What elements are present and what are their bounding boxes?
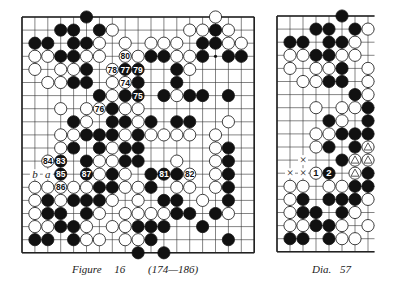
black-stone xyxy=(349,180,361,192)
move-number: 2 xyxy=(326,167,331,178)
white-stone xyxy=(297,180,309,192)
white-stone xyxy=(336,233,348,245)
black-stone xyxy=(336,36,348,48)
white-stone xyxy=(362,193,374,205)
black-stone xyxy=(310,23,322,35)
dia-caption-label: Dia. xyxy=(312,263,331,275)
white-stone xyxy=(336,102,348,114)
black-stone xyxy=(297,206,309,218)
white-stone xyxy=(297,220,309,232)
white-stone xyxy=(297,49,309,61)
point-mark: × xyxy=(299,153,307,167)
black-stone xyxy=(297,36,309,48)
black-stone xyxy=(297,233,309,245)
figure-caption: Figure 16 (174—186) xyxy=(72,263,198,275)
white-stone xyxy=(284,180,296,192)
black-stone xyxy=(323,193,335,205)
white-stone xyxy=(336,115,348,127)
black-stone xyxy=(323,233,335,245)
white-stone xyxy=(336,180,348,192)
white-stone xyxy=(349,36,361,48)
black-stone xyxy=(323,115,335,127)
black-stone xyxy=(336,62,348,74)
figure-caption-range: (174—186) xyxy=(148,263,198,275)
black-stone xyxy=(284,233,296,245)
black-stone xyxy=(336,75,348,87)
white-stone xyxy=(310,75,322,87)
white-stone xyxy=(336,220,348,232)
black-stone xyxy=(323,220,335,232)
black-stone xyxy=(310,49,322,61)
white-stone xyxy=(362,89,374,101)
white-stone: 1 xyxy=(310,167,322,179)
black-stone xyxy=(297,193,309,205)
black-stone xyxy=(323,75,335,87)
dia-caption: Dia. 57 xyxy=(312,263,351,275)
white-stone xyxy=(336,49,348,61)
figure-caption-number: 16 xyxy=(114,263,125,275)
black-stone xyxy=(349,193,361,205)
white-stone xyxy=(362,62,374,74)
black-stone xyxy=(284,36,296,48)
white-stone xyxy=(349,102,361,114)
white-stone xyxy=(310,62,322,74)
white-stone xyxy=(310,141,322,153)
black-stone xyxy=(362,128,374,140)
go-board-dia-57: ×××12 xyxy=(0,0,394,262)
white-stone xyxy=(349,49,361,61)
black-stone xyxy=(323,36,335,48)
black-stone xyxy=(323,49,335,61)
white-stone xyxy=(349,233,361,245)
white-stone xyxy=(284,206,296,218)
white-stone xyxy=(362,23,374,35)
black-stone xyxy=(362,180,374,192)
white-stone xyxy=(323,62,335,74)
black-stone xyxy=(336,128,348,140)
black-stone: 2 xyxy=(323,167,335,179)
black-stone xyxy=(362,115,374,127)
black-stone xyxy=(362,102,374,114)
white-stone xyxy=(284,193,296,205)
white-stone xyxy=(349,154,361,166)
white-stone xyxy=(349,167,361,179)
black-stone xyxy=(336,206,348,218)
black-stone xyxy=(310,220,322,232)
point-mark: × xyxy=(299,166,307,180)
white-stone xyxy=(362,75,374,87)
white-stone xyxy=(284,220,296,232)
black-stone xyxy=(349,141,361,153)
black-stone xyxy=(323,23,335,35)
white-stone xyxy=(323,128,335,140)
white-stone xyxy=(362,154,374,166)
white-stone xyxy=(297,75,309,87)
dia-caption-number: 57 xyxy=(340,263,351,275)
black-stone xyxy=(362,167,374,179)
black-stone xyxy=(349,23,361,35)
point-mark: × xyxy=(286,166,294,180)
white-stone xyxy=(362,220,374,232)
black-stone xyxy=(323,141,335,153)
white-stone xyxy=(284,62,296,74)
figure-caption-label: Figure xyxy=(72,263,102,275)
white-stone xyxy=(310,128,322,140)
black-stone xyxy=(310,206,322,218)
white-stone xyxy=(310,102,322,114)
white-stone xyxy=(323,180,335,192)
black-stone xyxy=(336,193,348,205)
black-stone xyxy=(336,154,348,166)
white-stone xyxy=(362,141,374,153)
black-stone xyxy=(349,89,361,101)
white-stone xyxy=(349,206,361,218)
move-number: 1 xyxy=(313,167,319,178)
black-stone xyxy=(349,128,361,140)
white-stone xyxy=(284,49,296,61)
black-stone xyxy=(336,10,348,22)
